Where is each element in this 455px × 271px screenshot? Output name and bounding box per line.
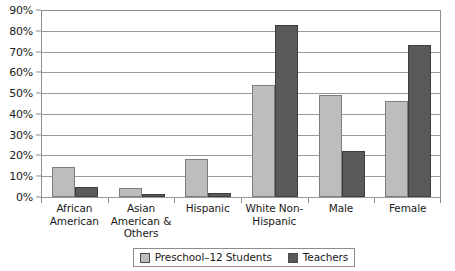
bar-students (119, 188, 142, 197)
bar-group (309, 10, 376, 197)
category-label-line: African (41, 202, 108, 215)
bar-students (385, 101, 408, 197)
y-axis-tick-mark (36, 51, 41, 52)
x-axis-category-label: White Non-Hispanic (241, 202, 308, 227)
y-axis-tick-mark (36, 113, 41, 114)
legend-swatch-students (140, 253, 150, 263)
bar-group (109, 10, 176, 197)
category-label-line: American (41, 215, 108, 228)
y-axis-tick-mark (36, 10, 41, 11)
category-label-line: Male (308, 202, 375, 215)
y-axis-tick-label: 60% (9, 67, 33, 78)
y-axis-tick-mark (36, 72, 41, 73)
y-axis-tick-mark (36, 30, 41, 31)
legend-label: Teachers (303, 252, 348, 263)
y-axis-tick-label: 10% (9, 171, 33, 182)
y-axis-tick-mark (36, 93, 41, 94)
y-axis-tick-label: 30% (9, 129, 33, 140)
category-label-line: Hispanic (174, 202, 241, 215)
bar-students (252, 85, 275, 197)
bar-students (52, 167, 75, 197)
legend-item: Teachers (288, 252, 348, 263)
bar-group (175, 10, 242, 197)
y-axis-tick-label: 90% (9, 5, 33, 16)
category-label-line: White Non- (241, 202, 308, 215)
x-axis-category-labels: AfricanAmericanAsianAmerican &OthersHisp… (41, 202, 441, 246)
y-axis-tick-label: 0% (16, 192, 33, 203)
x-axis-category-label: AsianAmerican &Others (108, 202, 175, 240)
category-label-line: Female (374, 202, 441, 215)
bar-teachers (275, 25, 298, 197)
y-axis: 0%10%20%30%40%50%60%70%80%90% (0, 0, 41, 271)
category-label-line: Others (108, 227, 175, 240)
y-axis-tick-label: 70% (9, 46, 33, 57)
bar-students (319, 95, 342, 197)
chart-legend: Preschool–12 StudentsTeachers (133, 248, 355, 267)
category-label-line: Hispanic (241, 215, 308, 228)
y-axis-tick-mark (36, 134, 41, 135)
bar-teachers (342, 151, 365, 197)
x-axis-category-label: AfricanAmerican (41, 202, 108, 227)
bar-chart: 0%10%20%30%40%50%60%70%80%90% AfricanAme… (0, 0, 455, 271)
bar-group (375, 10, 442, 197)
y-axis-tick-mark (36, 176, 41, 177)
y-axis-tick-label: 40% (9, 108, 33, 119)
x-axis-category-label: Male (308, 202, 375, 215)
legend-swatch-teachers (288, 253, 298, 263)
bar-teachers (408, 45, 431, 197)
legend-item: Preschool–12 Students (140, 252, 272, 263)
y-axis-tick-mark (36, 155, 41, 156)
legend-label: Preschool–12 Students (155, 252, 272, 263)
y-axis-tick-label: 20% (9, 150, 33, 161)
category-label-line: American & (108, 215, 175, 228)
bar-students (185, 159, 208, 197)
bar-group (42, 10, 109, 197)
y-axis-tick-label: 80% (9, 25, 33, 36)
x-axis-category-label: Hispanic (174, 202, 241, 215)
bars-layer (42, 10, 440, 197)
category-label-line: Asian (108, 202, 175, 215)
x-axis-category-label: Female (374, 202, 441, 215)
bar-teachers (75, 187, 98, 197)
y-axis-tick-label: 50% (9, 88, 33, 99)
bar-group (242, 10, 309, 197)
